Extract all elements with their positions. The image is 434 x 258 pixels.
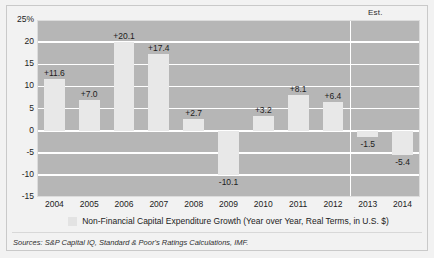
bar-2012[interactable] bbox=[323, 102, 344, 130]
bar-2008[interactable] bbox=[183, 119, 204, 131]
bar-2011[interactable] bbox=[288, 95, 309, 131]
y-tick-label--15: -15 bbox=[2, 191, 34, 201]
x-tick-label-2013: 2013 bbox=[350, 199, 385, 209]
x-tick-label-2012: 2012 bbox=[316, 199, 351, 209]
bar-value-label-2004: +11.6 bbox=[37, 68, 73, 78]
bar-2013[interactable] bbox=[357, 131, 378, 138]
bar-value-label-2009: -10.1 bbox=[210, 177, 247, 187]
x-tick-label-2007: 2007 bbox=[141, 199, 176, 209]
bar-2007[interactable] bbox=[148, 54, 169, 131]
estimate-annotation-label: Est. bbox=[368, 8, 383, 17]
y-tick-label-10: 10 bbox=[2, 80, 34, 90]
chart-legend: Non-Financial Capital Expenditure Growth… bbox=[37, 216, 420, 226]
x-tick-label-2004: 2004 bbox=[37, 199, 72, 209]
y-tick-label-0: 0 bbox=[2, 125, 34, 135]
legend-swatch-capex bbox=[68, 217, 77, 226]
x-axis: 2004200520062007200820092010201120122013… bbox=[37, 199, 420, 213]
bar-value-label-2012: +6.4 bbox=[315, 91, 352, 101]
x-tick-label-2011: 2011 bbox=[281, 199, 316, 209]
y-tick-label-25: 25% bbox=[2, 14, 34, 24]
x-tick-label-2014: 2014 bbox=[385, 199, 420, 209]
bar-value-label-2014: -5.4 bbox=[384, 157, 420, 167]
bar-value-label-2011: +8.1 bbox=[280, 84, 317, 94]
y-axis: 25%20151050-5-10-15 bbox=[0, 20, 34, 197]
x-tick-label-2010: 2010 bbox=[246, 199, 281, 209]
bar-value-label-2005: +7.0 bbox=[71, 89, 108, 99]
bar-2010[interactable] bbox=[253, 116, 274, 130]
y-tick-label-15: 15 bbox=[2, 58, 34, 68]
estimate-divider-line bbox=[350, 20, 352, 197]
chart-figure: Est. +11.6+7.0+20.1+17.4+2.7-10.1+3.2+8.… bbox=[0, 0, 434, 258]
gridline-15 bbox=[37, 64, 420, 66]
x-tick-label-2006: 2006 bbox=[107, 199, 142, 209]
bar-2009[interactable] bbox=[218, 131, 239, 176]
x-tick-label-2005: 2005 bbox=[72, 199, 107, 209]
source-divider bbox=[12, 232, 422, 233]
y-tick-label-5: 5 bbox=[2, 103, 34, 113]
y-tick-label--5: -5 bbox=[2, 147, 34, 157]
plot-area: +11.6+7.0+20.1+17.4+2.7-10.1+3.2+8.1+6.4… bbox=[37, 20, 420, 197]
x-tick-label-2009: 2009 bbox=[211, 199, 246, 209]
bar-value-label-2008: +2.7 bbox=[175, 108, 212, 118]
y-tick-label--10: -10 bbox=[2, 169, 34, 179]
bar-2014[interactable] bbox=[392, 131, 413, 155]
bar-value-label-2013: -1.5 bbox=[349, 139, 386, 149]
bar-value-label-2010: +3.2 bbox=[245, 105, 282, 115]
gridline-10 bbox=[37, 86, 420, 88]
gridline-20 bbox=[37, 41, 420, 43]
legend-label-capex: Non-Financial Capital Expenditure Growth… bbox=[82, 216, 389, 226]
x-tick-label-2008: 2008 bbox=[176, 199, 211, 209]
bar-2006[interactable] bbox=[114, 42, 135, 131]
bar-value-label-2006: +20.1 bbox=[106, 31, 143, 41]
source-note: Sources: S&P Capital IQ, Standard & Poor… bbox=[13, 238, 248, 247]
bar-value-label-2007: +17.4 bbox=[141, 43, 178, 53]
y-tick-label-20: 20 bbox=[2, 36, 34, 46]
bar-2004[interactable] bbox=[44, 79, 65, 130]
bar-2005[interactable] bbox=[79, 100, 100, 131]
